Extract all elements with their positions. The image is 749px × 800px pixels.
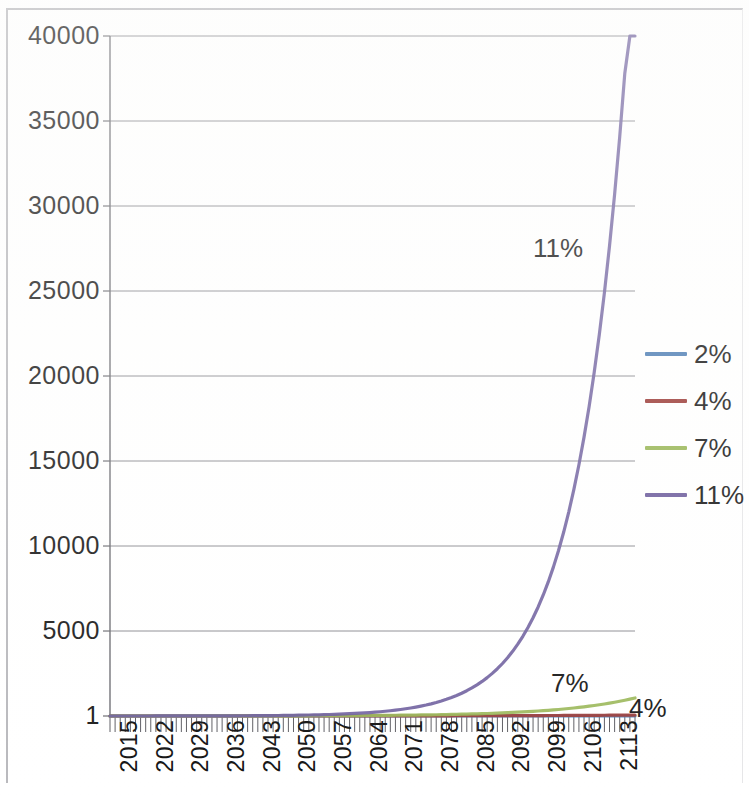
- y-axis-tick-label: 30000: [0, 193, 100, 218]
- y-axis-tick-label: 25000: [0, 278, 100, 303]
- x-axis-tick-label: 2092: [510, 720, 533, 772]
- x-axis-tick-label: 2064: [368, 720, 391, 772]
- x-axis-tick-label: 2015: [118, 720, 141, 772]
- legend-label: 7%: [694, 435, 732, 461]
- x-axis-tick-label: 2029: [189, 720, 212, 772]
- annotation-7-percent: 7%: [551, 670, 589, 696]
- y-axis-tick-label: 40000: [0, 23, 100, 48]
- x-axis-tick-label: 2022: [154, 720, 177, 772]
- legend-color-swatch: [645, 493, 687, 497]
- chart-container: 4000035000300002500020000150001000050001…: [0, 0, 749, 800]
- annotation-11-percent: 11%: [533, 235, 583, 261]
- plot-area: [110, 36, 635, 716]
- y-axis-tick-labels: 4000035000300002500020000150001000050001: [0, 0, 100, 800]
- legend-label: 2%: [694, 341, 732, 367]
- legend-item: 11%: [645, 471, 749, 518]
- x-axis-tick-label: 2078: [439, 720, 462, 772]
- x-axis-tick-label: 2050: [296, 720, 319, 772]
- x-axis-tick-label: 2071: [403, 720, 426, 772]
- legend-item: 4%: [645, 377, 749, 424]
- y-axis-tick-label: 35000: [0, 108, 100, 133]
- legend-color-swatch: [645, 399, 687, 403]
- legend-label: 11%: [694, 482, 744, 508]
- x-axis-tick-label: 2085: [475, 720, 498, 772]
- y-axis-tick-label: 1: [0, 703, 100, 728]
- annotation-4-percent: 4%: [629, 695, 667, 721]
- y-axis-tick-label: 5000: [0, 618, 100, 643]
- plot-svg: [110, 36, 635, 716]
- legend-item: 7%: [645, 424, 749, 471]
- legend-label: 4%: [694, 388, 732, 414]
- x-axis-tick-label: 2043: [261, 720, 284, 772]
- x-axis-tick-label: 2113: [618, 720, 641, 771]
- y-axis-tick-label: 10000: [0, 533, 100, 558]
- legend-color-swatch: [645, 446, 687, 450]
- x-axis-tick-label: 2057: [332, 720, 355, 772]
- x-axis-tick-label: 2036: [225, 720, 248, 772]
- y-axis-tick-label: 20000: [0, 363, 100, 388]
- y-axis-tick-label: 15000: [0, 448, 100, 473]
- x-axis-tick-label: 2099: [546, 720, 569, 772]
- x-axis-tick-label: 2106: [582, 720, 605, 772]
- legend-color-swatch: [645, 352, 687, 356]
- legend-item: 2%: [645, 330, 749, 377]
- x-axis-tick-labels: 2015202220292036204320502057206420712078…: [110, 720, 670, 800]
- chart-legend: 2%4%7%11%: [645, 330, 749, 518]
